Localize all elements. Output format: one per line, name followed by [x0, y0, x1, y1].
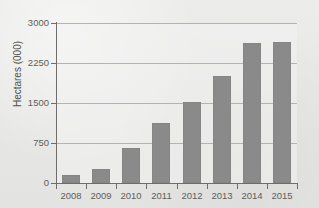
y-axis-tick: [51, 103, 56, 104]
x-axis-tick: [146, 184, 147, 189]
x-axis-tick: [86, 184, 87, 189]
y-axis-tick-label: 1500: [28, 98, 49, 108]
bar-2009: [92, 169, 110, 183]
y-axis-tick-label: 750: [33, 138, 49, 148]
y-axis-tick-label: 0: [44, 178, 49, 188]
x-axis-tick-label: 2011: [146, 191, 177, 201]
y-axis-title: Hectares (000): [13, 25, 23, 123]
bar-2010: [122, 148, 140, 183]
x-axis-tick: [207, 184, 208, 189]
x-axis-tick-label: 2015: [267, 191, 297, 201]
bar-2011: [152, 123, 170, 183]
y-axis-tick: [51, 23, 56, 24]
bar-2013: [213, 76, 231, 183]
x-axis-tick-label: 2012: [177, 191, 207, 201]
x-axis-tick: [56, 184, 57, 189]
y-axis-tick: [51, 63, 56, 64]
bar-chart: 3000 2250 1500 750 0 Hectares (000) 2008…: [0, 0, 319, 208]
bar-2008: [62, 175, 80, 183]
x-axis-tick: [297, 184, 298, 189]
bar-2012: [183, 102, 201, 183]
y-axis-tick-label: 3000: [28, 18, 49, 28]
x-axis-tick: [237, 184, 238, 189]
x-axis-tick: [177, 184, 178, 189]
x-axis-tick-label: 2008: [56, 191, 86, 201]
y-axis-tick-label: 2250: [28, 58, 49, 68]
y-axis-line: [56, 22, 57, 184]
x-axis-tick-label: 2009: [86, 191, 116, 201]
bar-2014: [243, 43, 261, 183]
x-axis-tick-label: 2013: [207, 191, 237, 201]
gridline: [56, 23, 297, 24]
x-axis-tick: [267, 184, 268, 189]
x-axis-tick-label: 2014: [237, 191, 267, 201]
x-axis-tick-label: 2010: [116, 191, 146, 201]
bar-2015: [273, 42, 291, 183]
x-axis-tick: [116, 184, 117, 189]
y-axis-tick: [51, 143, 56, 144]
